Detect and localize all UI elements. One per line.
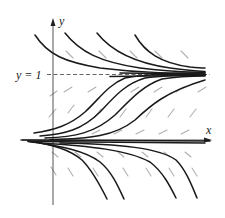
curve-logistic-4 — [50, 80, 205, 140]
curve-near-0-b — [30, 142, 205, 144]
x-axis-label: x — [205, 123, 212, 137]
curve-logistic-3 — [45, 76, 205, 138]
curve-below-0-a — [28, 141, 107, 199]
y-axis-label: y — [58, 14, 65, 28]
axes — [20, 18, 212, 205]
curve-below-0-d — [60, 143, 197, 198]
y-axis-arrow-icon — [51, 18, 56, 26]
equilibrium-label: y = 1 — [15, 68, 41, 82]
x-axis-arrow-icon — [204, 138, 212, 143]
curve-near-0-a — [22, 140, 210, 141]
plot-canvas: y x y = 1 — [0, 0, 225, 218]
curve-logistic-2 — [40, 75, 205, 136]
curve-logistic-1 — [34, 74, 205, 133]
direction-field-figure: y x y = 1 — [0, 0, 225, 218]
curve-above-1-a — [35, 35, 205, 73]
